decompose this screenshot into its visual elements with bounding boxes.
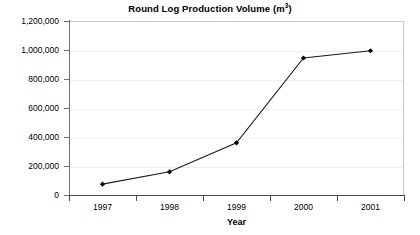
data-point-marker	[167, 169, 172, 174]
data-point-marker	[368, 48, 373, 53]
series-line	[103, 51, 371, 184]
x-axis-title: Year	[69, 217, 404, 227]
series-markers	[100, 48, 373, 187]
data-point-marker	[100, 182, 105, 187]
line-chart: Round Log Production Volume (m3) 1,200,0…	[0, 0, 420, 235]
series-layer	[0, 0, 420, 235]
